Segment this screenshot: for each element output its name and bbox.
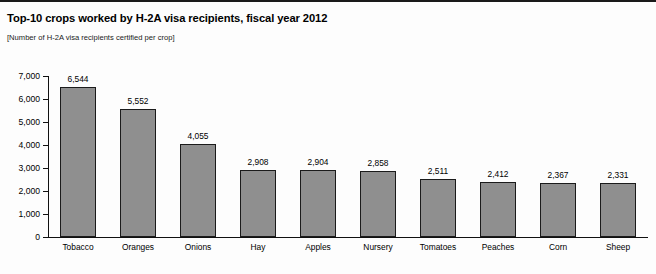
y-axis-tick-label: 1,000 — [18, 209, 40, 219]
bar-value-label: 5,552 — [108, 96, 168, 106]
chart-title: Top-10 crops worked by H-2A visa recipie… — [7, 12, 327, 24]
x-axis-category-label: Peaches — [468, 242, 528, 252]
y-axis-tick-label: 7,000 — [18, 71, 40, 81]
x-axis-category-label: Sheep — [588, 242, 648, 252]
bar — [420, 179, 456, 237]
bar-value-label: 2,331 — [588, 170, 648, 180]
y-axis-tick-label: 4,000 — [18, 140, 40, 150]
bar-group: 6,544Tobacco — [48, 76, 108, 237]
bar — [600, 183, 636, 237]
bar-group: 4,055Onions — [168, 76, 228, 237]
bar-value-label: 2,904 — [288, 157, 348, 167]
x-axis-category-label: Onions — [168, 242, 228, 252]
x-axis-category-label: Nursery — [348, 242, 408, 252]
chart-figure: Top-10 crops worked by H-2A visa recipie… — [0, 0, 656, 274]
bar-group: 2,908Hay — [228, 76, 288, 237]
top-divider-rule — [0, 0, 656, 2]
bar — [480, 182, 516, 237]
bar-group: 2,511Tomatoes — [408, 76, 468, 237]
x-axis-category-label: Tobacco — [48, 242, 108, 252]
bar — [360, 171, 396, 237]
bar-value-label: 2,858 — [348, 158, 408, 168]
y-axis-tick-label: 2,000 — [18, 186, 40, 196]
bar — [60, 87, 96, 238]
bar-value-label: 2,412 — [468, 169, 528, 179]
bar-value-label: 6,544 — [48, 74, 108, 84]
bar-value-label: 4,055 — [168, 131, 228, 141]
chart-subtitle: [Number of H-2A visa recipients certifie… — [7, 33, 175, 42]
y-axis-tick-label: 3,000 — [18, 163, 40, 173]
x-axis-line — [48, 237, 648, 238]
bar — [240, 170, 276, 237]
bar-group: 2,331Sheep — [588, 76, 648, 237]
plot-area: 01,0002,0003,0004,0005,0006,0007,000 6,5… — [48, 76, 648, 237]
x-axis-category-label: Corn — [528, 242, 588, 252]
bar-value-label: 2,511 — [408, 166, 468, 176]
y-axis-tick-label: 5,000 — [18, 117, 40, 127]
y-axis-tick — [43, 237, 49, 238]
bar-value-label: 2,367 — [528, 170, 588, 180]
bar-value-label: 2,908 — [228, 157, 288, 167]
bar — [180, 144, 216, 237]
x-axis-category-label: Hay — [228, 242, 288, 252]
bar-group: 5,552Oranges — [108, 76, 168, 237]
bar-group: 2,367Corn — [528, 76, 588, 237]
x-axis-category-label: Oranges — [108, 242, 168, 252]
x-axis-category-label: Apples — [288, 242, 348, 252]
bar-group: 2,858Nursery — [348, 76, 408, 237]
bar — [300, 170, 336, 237]
bar-group: 2,904Apples — [288, 76, 348, 237]
bar — [120, 109, 156, 237]
bar — [540, 183, 576, 237]
x-axis-category-label: Tomatoes — [408, 242, 468, 252]
bar-group: 2,412Peaches — [468, 76, 528, 237]
y-axis-tick-label: 6,000 — [18, 94, 40, 104]
y-axis-tick-label: 0 — [35, 232, 40, 242]
